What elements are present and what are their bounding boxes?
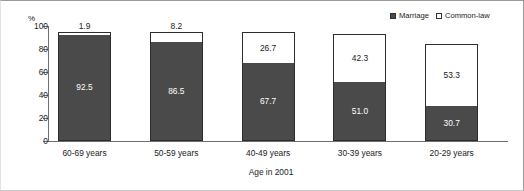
legend-label-marriage: Marriage bbox=[399, 12, 429, 20]
bar-group: 8.286.5 bbox=[150, 26, 203, 141]
bar-group: 26.767.7 bbox=[242, 26, 295, 141]
bar-value-label-marriage: 92.5 bbox=[76, 83, 92, 91]
bar-segment-marriage[interactable]: 86.5 bbox=[150, 42, 203, 141]
bar-value-label-common-law: 26.7 bbox=[260, 44, 276, 52]
x-axis-title: Age in 2001 bbox=[1, 168, 524, 176]
x-axis-category-label: 40-49 years bbox=[223, 149, 313, 157]
bar-value-label-marriage: 51.0 bbox=[352, 107, 368, 115]
y-tick-label: 0 bbox=[14, 137, 48, 145]
bar-segment-marriage[interactable]: 67.7 bbox=[242, 63, 295, 141]
bar-stack: 8.286.5 bbox=[150, 32, 203, 141]
bar-value-label-marriage: 67.7 bbox=[260, 97, 276, 105]
bar-segment-common-law[interactable]: 26.7 bbox=[242, 32, 295, 63]
x-axis-title-text: Age in 2001 bbox=[249, 168, 294, 176]
bar-segment-marriage[interactable]: 92.5 bbox=[58, 35, 111, 141]
legend-swatch-marriage-icon bbox=[390, 13, 396, 19]
bar-value-label-common-law: 42.3 bbox=[352, 54, 368, 62]
legend-label-common-law: Common-law bbox=[445, 12, 490, 20]
bar-stack: 26.767.7 bbox=[242, 32, 295, 141]
bar-segment-marriage[interactable]: 51.0 bbox=[333, 82, 386, 141]
legend-item-marriage: Marriage bbox=[390, 12, 429, 20]
bar-value-label-marriage: 30.7 bbox=[444, 119, 460, 127]
plot-area: 1.992.58.286.526.767.742.351.053.330.7 bbox=[49, 26, 508, 141]
x-axis-category-label: 20-29 years bbox=[407, 149, 497, 157]
stacked-bar-chart: Marriage Common-law % 100806040200 1.992… bbox=[0, 0, 524, 191]
bar-value-label-common-law: 53.3 bbox=[444, 71, 460, 79]
bar-group: 42.351.0 bbox=[333, 26, 386, 141]
legend-item-common-law: Common-law bbox=[436, 12, 490, 20]
legend-swatch-common-law-icon bbox=[436, 13, 442, 19]
y-tick-label: 80 bbox=[14, 45, 48, 53]
bar-stack: 42.351.0 bbox=[333, 34, 386, 141]
bar-stack: 1.992.5 bbox=[58, 32, 111, 141]
y-tick-label: 100 bbox=[14, 22, 48, 30]
y-tick-label: 60 bbox=[14, 68, 48, 76]
bar-segment-common-law[interactable]: 53.3 bbox=[425, 44, 478, 105]
bar-value-label-common-law: 8.2 bbox=[170, 22, 182, 30]
bar-value-label-common-law: 1.9 bbox=[79, 22, 91, 30]
x-axis-category-label: 60-69 years bbox=[40, 149, 130, 157]
bar-stack: 53.330.7 bbox=[425, 44, 478, 141]
bar-group: 53.330.7 bbox=[425, 26, 478, 141]
y-tick-label: 20 bbox=[14, 114, 48, 122]
x-axis-category-label: 30-39 years bbox=[315, 149, 405, 157]
bar-segment-marriage[interactable]: 30.7 bbox=[425, 106, 478, 141]
x-axis-category-label: 50-59 years bbox=[131, 149, 221, 157]
x-axis-line bbox=[48, 141, 508, 142]
bar-group: 1.992.5 bbox=[58, 26, 111, 141]
chart-legend: Marriage Common-law bbox=[390, 12, 490, 20]
bar-value-label-marriage: 86.5 bbox=[168, 87, 184, 95]
bar-segment-common-law[interactable]: 8.2 bbox=[150, 32, 203, 41]
bar-segment-common-law[interactable]: 42.3 bbox=[333, 34, 386, 83]
y-tick-label: 40 bbox=[14, 91, 48, 99]
